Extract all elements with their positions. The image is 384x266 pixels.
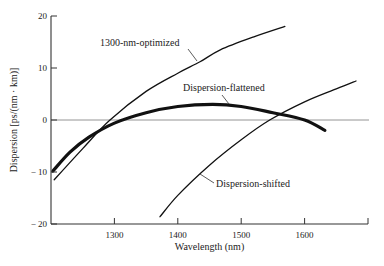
annotation-leader-line (200, 174, 214, 183)
annotation-label: Dispersion-shifted (216, 178, 290, 189)
y-axis: 20100− 10− 20 (31, 11, 57, 229)
annotation-label: 1300-nm-optimized (100, 37, 179, 48)
y-axis-title: Dispersion [ps/(nm · km)] (8, 68, 20, 173)
y-tick-label: − 10 (31, 167, 48, 177)
x-tick-label: 1300 (105, 230, 124, 240)
x-axis-title: Wavelength (nm) (175, 241, 244, 253)
series-dispersion-shifted-curve (160, 81, 356, 217)
annotation-leader-line (188, 49, 197, 61)
x-tick-label: 1500 (232, 230, 251, 240)
plot-area: 1300-nm-optimizedDispersion-flattenedDis… (51, 26, 369, 216)
annotation-leader-line (222, 95, 229, 104)
annotation-label: Dispersion-flattened (183, 82, 265, 93)
dispersion-chart: 1300-nm-optimizedDispersion-flattenedDis… (0, 0, 384, 266)
y-tick-label: − 20 (31, 219, 48, 229)
y-tick-label: 20 (38, 11, 48, 21)
series-dispersion-flattened-curve (53, 104, 325, 171)
y-tick-label: 10 (38, 63, 48, 73)
series-1300-nm-optimized-curve (54, 26, 285, 179)
y-tick-label: 0 (43, 115, 48, 125)
series-layer (53, 26, 356, 216)
x-tick-label: 1600 (296, 230, 315, 240)
x-axis: 1300140015001600 (51, 218, 368, 240)
x-tick-label: 1400 (169, 230, 188, 240)
annotation-layer: 1300-nm-optimizedDispersion-flattenedDis… (100, 37, 290, 189)
